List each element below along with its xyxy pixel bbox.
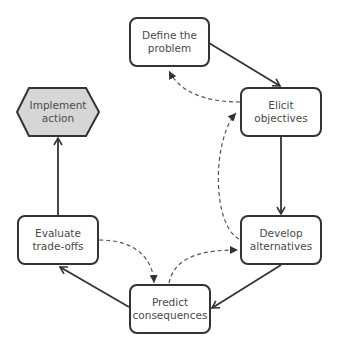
node-develop-label-1: Develop: [250, 227, 312, 240]
node-define-problem: Define the problem: [129, 17, 210, 67]
node-evaluate-label-1: Evaluate: [32, 227, 83, 240]
node-define-label-1: Define the: [142, 29, 197, 42]
node-implement-label-2: action: [30, 112, 87, 125]
edge-predict-to-evaluate: [60, 267, 129, 307]
node-evaluate-tradeoffs: Evaluate trade-offs: [17, 215, 99, 265]
edge-develop-to-predict: [212, 265, 281, 308]
node-predict-label-1: Predict: [133, 296, 208, 309]
node-implement-label-1: Implement: [30, 99, 87, 112]
node-elicit-label-1: Elicit: [254, 99, 307, 112]
node-predict-label-2: consequences: [133, 309, 208, 322]
node-define-label-2: problem: [142, 42, 197, 55]
edge-define-to-elicit: [209, 43, 280, 86]
edge-develop-to-elicit-dashed: [218, 113, 239, 239]
node-elicit-objectives: Elicit objectives: [240, 87, 322, 137]
node-develop-label-2: alternatives: [250, 240, 312, 253]
node-predict-consequences: Predict consequences: [129, 284, 211, 334]
edge-evaluate-to-predict-dashed: [99, 240, 154, 283]
node-elicit-label-2: objectives: [254, 112, 307, 125]
edge-elicit-to-define-dashed: [169, 71, 240, 102]
node-develop-alternatives: Develop alternatives: [240, 215, 322, 265]
edge-predict-to-develop-dashed: [169, 250, 238, 283]
node-implement-action: Implement action: [17, 88, 99, 136]
node-evaluate-label-2: trade-offs: [32, 240, 83, 253]
